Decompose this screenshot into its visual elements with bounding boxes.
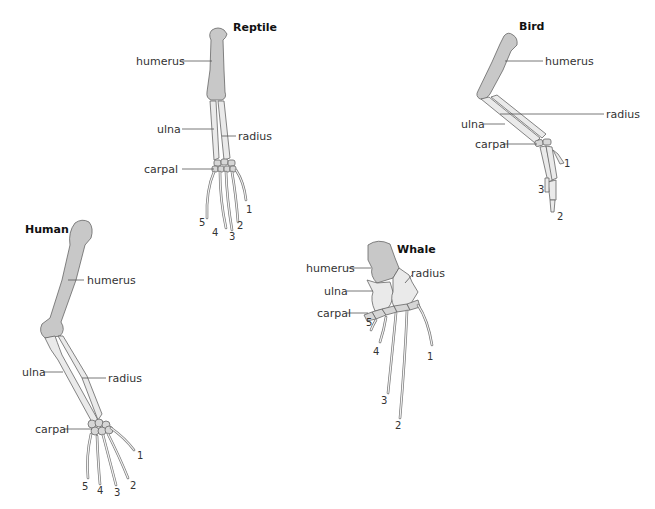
reptile-radius-label: radius xyxy=(238,130,272,143)
reptile-digit-4: 4 xyxy=(212,227,218,238)
human-limb: Human humerus ulna radius carpal 1 2 3 xyxy=(22,220,143,498)
bird-digit-2: 2 xyxy=(557,211,563,222)
bird-humerus-label: humerus xyxy=(545,55,594,68)
human-digit-4: 4 xyxy=(97,485,103,496)
reptile-digit-1: 1 xyxy=(246,204,252,215)
human-ulna-label: ulna xyxy=(22,366,46,379)
human-digit-3: 3 xyxy=(114,487,120,498)
whale-title: Whale xyxy=(397,243,436,256)
reptile-humerus xyxy=(207,28,227,100)
whale-digit-1: 1 xyxy=(427,351,433,362)
bird-digits xyxy=(540,146,564,212)
reptile-digit-2: 2 xyxy=(237,220,243,231)
whale-ulna xyxy=(367,280,393,311)
human-carpal-label: carpal xyxy=(35,423,69,436)
whale-humerus-label: humerus xyxy=(306,262,355,275)
forelimb-diagram: Reptile humerus ulna rad xyxy=(0,0,655,509)
bird-ulna xyxy=(481,97,540,143)
bird-humerus xyxy=(477,33,517,99)
bird-radius-label: radius xyxy=(606,108,640,121)
whale-digit-5: 5 xyxy=(366,317,372,328)
reptile-humerus-label: humerus xyxy=(136,55,185,68)
reptile-radius xyxy=(218,101,230,160)
reptile-digit-5: 5 xyxy=(199,217,205,228)
human-digit-1: 1 xyxy=(137,450,143,461)
bird-digit-3: 3 xyxy=(538,184,544,195)
whale-digit-4: 4 xyxy=(373,346,379,357)
whale-limb: Whale humerus radius ulna carpal 1 2 3 4 xyxy=(306,241,445,431)
whale-digit-2: 2 xyxy=(395,420,401,431)
bird-radius xyxy=(491,95,546,138)
human-humerus xyxy=(41,220,93,338)
reptile-ulna xyxy=(210,101,219,160)
reptile-carpal-label: carpal xyxy=(144,163,178,176)
human-carpals xyxy=(88,419,113,435)
whale-carpal-label: carpal xyxy=(317,307,351,320)
human-humerus-label: humerus xyxy=(87,274,136,287)
bird-ulna-label: ulna xyxy=(461,118,485,131)
bird-limb: Bird humerus radius ulna carpal 1 2 3 xyxy=(461,20,640,222)
human-digit-5: 5 xyxy=(82,481,88,492)
human-digits xyxy=(87,428,134,485)
reptile-digit-3: 3 xyxy=(229,231,235,242)
whale-ulna-label: ulna xyxy=(324,285,348,298)
reptile-ulna-label: ulna xyxy=(157,123,181,136)
bird-digit-1: 1 xyxy=(564,158,570,169)
whale-digit-3: 3 xyxy=(381,395,387,406)
human-ulna xyxy=(45,336,98,424)
bird-carpal-label: carpal xyxy=(475,138,509,151)
human-radius-label: radius xyxy=(108,372,142,385)
reptile-limb: Reptile humerus ulna rad xyxy=(136,21,277,242)
reptile-title: Reptile xyxy=(233,21,277,34)
bird-carpals xyxy=(534,139,551,147)
human-digit-2: 2 xyxy=(130,480,136,491)
human-title: Human xyxy=(25,223,69,236)
bird-title: Bird xyxy=(519,20,544,33)
whale-radius-label: radius xyxy=(411,267,445,280)
reptile-carpals xyxy=(212,159,236,172)
